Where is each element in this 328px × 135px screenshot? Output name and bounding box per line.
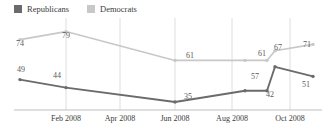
gridlines xyxy=(66,18,290,110)
legend-swatch-icon xyxy=(14,5,22,13)
x-axis-tick-label: Jun 2008 xyxy=(160,115,189,123)
data-point-marker[interactable] xyxy=(243,89,246,92)
data-point-marker[interactable] xyxy=(173,59,176,62)
data-point-marker[interactable] xyxy=(273,65,276,68)
chart-legend: Republicans Democrats xyxy=(14,2,155,16)
data-point-label: 79 xyxy=(62,32,70,40)
data-point-marker[interactable] xyxy=(64,86,67,89)
line-chart: Republicans Democrats 747961616771494435… xyxy=(0,0,328,135)
legend-item-republicans[interactable]: Republicans xyxy=(14,5,69,14)
data-point-label: 61 xyxy=(186,52,194,60)
data-point-label: 74 xyxy=(16,40,24,48)
plot-svg xyxy=(0,18,328,112)
data-point-marker[interactable] xyxy=(18,78,21,81)
legend-swatch-icon xyxy=(87,5,95,13)
data-point-label: 51 xyxy=(302,81,310,89)
data-point-marker[interactable] xyxy=(311,75,314,78)
data-point-label: 71 xyxy=(303,41,311,49)
data-point-label: 44 xyxy=(53,72,61,80)
data-point-label: 61 xyxy=(258,50,266,58)
data-point-label: 35 xyxy=(184,93,192,101)
x-axis-tick-label: Apr 2008 xyxy=(105,115,135,123)
x-axis-tick-label: Oct 2008 xyxy=(275,115,305,123)
data-point-marker[interactable] xyxy=(311,43,314,46)
x-axis-tick-label: Feb 2008 xyxy=(51,115,81,123)
plot-area xyxy=(0,18,328,112)
data-point-label: 49 xyxy=(17,66,25,74)
data-point-marker[interactable] xyxy=(265,59,268,62)
x-axis-tick-label: Aug 2008 xyxy=(216,115,248,123)
data-point-marker[interactable] xyxy=(173,100,176,103)
legend-label-republicans: Republicans xyxy=(27,5,69,14)
x-axis-labels: Feb 2008Apr 2008Jun 2008Aug 2008Oct 2008 xyxy=(0,115,328,129)
data-point-marker[interactable] xyxy=(243,59,246,62)
data-point-label: 57 xyxy=(251,73,259,81)
data-point-label: 67 xyxy=(274,44,282,52)
data-point-label: 42 xyxy=(266,91,274,99)
legend-label-democrats: Democrats xyxy=(100,5,137,14)
legend-item-democrats[interactable]: Democrats xyxy=(87,5,137,14)
